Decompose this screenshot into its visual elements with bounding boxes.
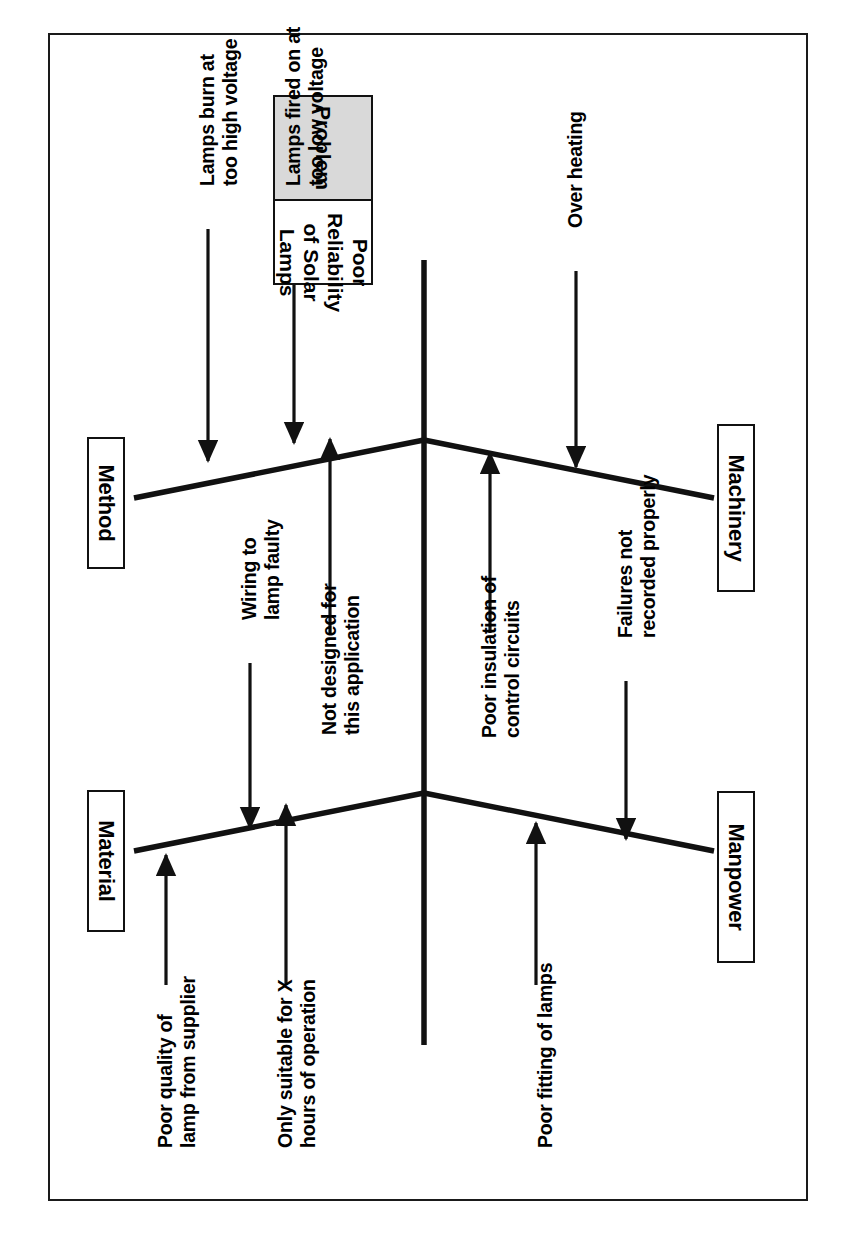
cause-line1: Wiring to bbox=[238, 537, 260, 620]
bone-material-lower bbox=[134, 793, 424, 851]
cause-line2: lamp from supplier bbox=[177, 976, 199, 1148]
cause-label-poor-fitting-of-lamps: Poor fitting of lamps bbox=[534, 963, 557, 1148]
cause-label-not-designed-for-application: Not designed for this application bbox=[318, 583, 363, 735]
cause-line2: lamp faulty bbox=[261, 519, 283, 620]
page-canvas: Problem Poor Reliability of Solar Lamps … bbox=[0, 0, 844, 1253]
category-box-manpower: Manpower bbox=[717, 791, 755, 963]
bone-machinery-upper bbox=[424, 440, 714, 498]
cause-label-only-suitable-x-hours: Only suitable for X hours of operation bbox=[274, 979, 319, 1148]
cause-line1: Poor fitting of lamps bbox=[534, 963, 556, 1148]
cause-line1: Not designed for bbox=[318, 583, 340, 735]
category-box-material: Material bbox=[87, 790, 125, 932]
cause-label-lamps-fired-low-voltage: Lamps fired on at too low voltage bbox=[282, 27, 327, 186]
cause-label-failures-not-recorded: Failures not recorded properly bbox=[614, 475, 659, 638]
problem-statement-cell: Poor Reliability of Solar Lamps bbox=[275, 201, 371, 324]
category-label-manpower: Manpower bbox=[723, 823, 749, 930]
cause-line2: control circuits bbox=[501, 600, 523, 738]
cause-label-poor-insulation-control-circuits: Poor insulation of control circuits bbox=[478, 576, 523, 738]
category-label-machinery: Machinery bbox=[723, 454, 749, 561]
cause-line1: Lamps fired on at bbox=[282, 27, 304, 186]
problem-statement-line2: of Solar Lamps bbox=[276, 224, 323, 302]
cause-line2: recorded properly bbox=[637, 475, 659, 638]
cause-line1: Poor quality of bbox=[154, 1014, 176, 1148]
cause-label-over-heating: Over heating bbox=[564, 111, 587, 228]
category-box-machinery: Machinery bbox=[717, 424, 755, 592]
problem-statement-line1: Poor Reliability bbox=[324, 213, 371, 312]
cause-line1: Failures not bbox=[614, 530, 636, 638]
cause-line1: Over heating bbox=[564, 111, 586, 228]
cause-line1: Lamps burn at bbox=[196, 54, 218, 186]
cause-line1: Only suitable for X bbox=[274, 980, 296, 1148]
bone-method-upper bbox=[134, 440, 424, 498]
cause-label-poor-quality-lamp-supplier: Poor quality of lamp from supplier bbox=[154, 976, 199, 1148]
cause-label-wiring-to-lamp-faulty: Wiring to lamp faulty bbox=[238, 519, 283, 620]
cause-line2: this application bbox=[341, 595, 363, 735]
cause-line2: too high voltage bbox=[219, 39, 241, 186]
category-label-material: Material bbox=[93, 820, 119, 902]
cause-line2: hours of operation bbox=[297, 979, 319, 1148]
category-label-method: Method bbox=[93, 464, 119, 541]
cause-line2: too low voltage bbox=[305, 47, 327, 186]
cause-line1: Poor insulation of bbox=[478, 576, 500, 738]
bone-manpower-lower bbox=[424, 793, 714, 851]
category-box-method: Method bbox=[87, 437, 125, 569]
cause-label-lamps-burn-high-voltage: Lamps burn at too high voltage bbox=[196, 39, 241, 186]
